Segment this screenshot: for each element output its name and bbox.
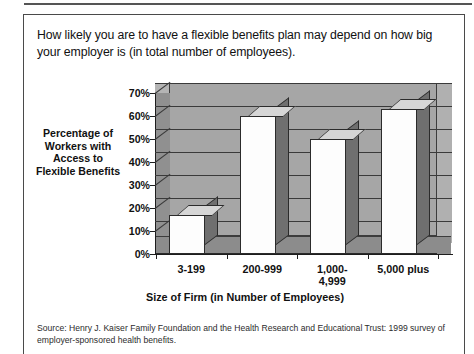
y-tick-label: 40% — [104, 156, 150, 168]
y-tick-label: 0% — [104, 248, 150, 260]
bar — [310, 139, 346, 254]
y-tick-label: 10% — [104, 225, 150, 237]
y-tick-mark — [150, 185, 155, 186]
y-tick-mark — [150, 162, 155, 163]
y-tick-mark — [150, 116, 155, 117]
bar-front-face — [310, 139, 346, 254]
bar — [381, 109, 417, 254]
x-axis-line — [155, 254, 453, 255]
bar-front-face — [240, 116, 276, 254]
plot-right-depth-face — [437, 83, 452, 243]
bar-chart: Percentage of Workers with Access to Fle… — [24, 75, 466, 307]
x-axis-title: Size of Firm (in Number of Employees) — [24, 291, 466, 303]
bar-side-face — [276, 97, 289, 245]
y-tick-mark — [150, 231, 155, 232]
y-tick-mark — [150, 139, 155, 140]
figure-headline: How likely you are to have a flexible be… — [37, 27, 451, 60]
plot-area: 0%10%20%30%40%50%60%70% 3-199200-9991,00… — [132, 83, 452, 283]
x-tick-mark — [297, 254, 298, 259]
bar-side-face — [417, 90, 430, 245]
x-category-label: 5,000 plus — [368, 263, 439, 275]
bar-front-face — [381, 109, 417, 254]
x-category-label: 1,000- 4,999 — [297, 263, 368, 288]
gridline — [155, 83, 452, 84]
y-tick-label: 70% — [104, 87, 150, 99]
x-category-label: 3-199 — [156, 263, 227, 275]
x-tick-mark — [438, 254, 439, 259]
top-divider-rule — [24, 3, 472, 5]
figure-panel: How likely you are to have a flexible be… — [23, 14, 465, 354]
y-tick-label: 50% — [104, 133, 150, 145]
source-note: Source: Henry J. Kaiser Family Foundatio… — [37, 323, 451, 346]
y-tick-label: 30% — [104, 179, 150, 191]
x-tick-mark — [156, 254, 157, 259]
bar — [240, 116, 276, 254]
x-tick-mark — [368, 254, 369, 259]
y-tick-mark — [150, 254, 155, 255]
x-tick-mark — [227, 254, 228, 259]
bar-front-face — [169, 215, 205, 254]
bar — [169, 215, 205, 254]
x-category-label: 200-999 — [227, 263, 298, 275]
y-tick-label: 60% — [104, 110, 150, 122]
y-tick-label: 20% — [104, 202, 150, 214]
y-tick-mark — [150, 93, 155, 94]
y-tick-mark — [150, 208, 155, 209]
